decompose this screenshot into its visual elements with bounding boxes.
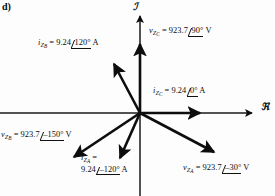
label-v-zc-value: = 923.7 <box>160 26 188 35</box>
label-i-za-eq: = <box>90 153 97 162</box>
label-i-za-angle: –120° <box>96 165 120 176</box>
label-v-zc-unit: V <box>203 26 211 35</box>
label-i-za-value: 9.24 <box>81 165 96 174</box>
label-v-zb: vZB = 923.7–150° V <box>1 130 72 142</box>
label-v-zb-value: = 923.7 <box>12 130 40 139</box>
label-v-zb-angle: –150° <box>40 130 64 141</box>
label-i-za-line1: iZA = <box>81 153 128 165</box>
label-i-zc-value: = 9.24 <box>162 86 186 95</box>
label-v-za-value: = 923.7 <box>194 163 222 172</box>
label-i-zb-angle: 120° <box>71 38 90 49</box>
label-i-za-unit: A <box>120 165 128 174</box>
imaginary-axis-label: ℐ <box>133 1 138 12</box>
label-v-zc-angle: 90° <box>188 26 203 37</box>
label-v-za-angle: –30° <box>222 163 241 174</box>
vector-i-zb <box>114 64 140 113</box>
label-i-zb-unit: A <box>91 38 99 47</box>
label-i-zc-unit: A <box>198 86 206 95</box>
phasor-diagram-figure: d) ℐ ℜ iZB = 9.24120° A <box>0 0 275 196</box>
vector-v-za <box>140 113 214 152</box>
label-i-zc: iZC = 9.240° A <box>153 86 205 98</box>
label-v-zc: vZC = 923.790° V <box>149 26 212 38</box>
label-i-zb: iZB = 9.24120° A <box>38 38 99 50</box>
label-i-za: iZA = 9.24–120° A <box>81 153 128 175</box>
label-i-zc-angle: 0° <box>187 86 198 97</box>
label-i-zb-value: = 9.24 <box>47 38 71 47</box>
real-axis-label: ℜ <box>261 101 269 112</box>
label-v-za-unit: V <box>241 163 249 172</box>
label-i-za-line2: 9.24–120° A <box>81 165 128 176</box>
label-v-zb-unit: V <box>64 130 72 139</box>
label-v-za: vZA = 923.7–30° V <box>183 163 249 175</box>
